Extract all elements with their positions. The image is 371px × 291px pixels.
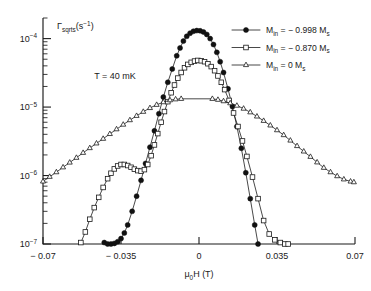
marker-filled-circle [156,111,161,116]
marker-open-square [272,238,277,243]
marker-filled-circle [214,50,219,55]
marker-open-square [278,240,283,245]
marker-open-triangle [81,150,86,154]
y-tick-label: 10−7 [20,238,38,249]
marker-open-square [250,175,255,180]
x-tick-label: − 0.035 [106,251,136,261]
marker-open-triangle [261,118,266,122]
marker-filled-circle [252,222,257,227]
plot-canvas: 10−410−510−610−7− 0.07− 0.03500.0350.07μ… [0,0,371,291]
marker-open-triangle [47,174,52,178]
y-axis-title: Γsqrts(s−1) [57,20,94,34]
marker-filled-circle [181,39,186,44]
marker-filled-circle [218,59,223,64]
marker-open-square [222,87,227,92]
marker-open-triangle [40,179,45,183]
marker-open-square [101,185,106,190]
marker-open-triangle [173,96,178,100]
marker-filled-circle [211,42,216,47]
text-layer: 10−410−510−610−7− 0.07− 0.03500.0350.07μ… [20,20,364,281]
figure-container: 10−410−510−610−7− 0.07− 0.03500.0350.07μ… [0,0,371,291]
marker-open-square [149,153,154,158]
marker-open-square [109,171,114,176]
marker-filled-circle [165,80,170,85]
marker-filled-circle [174,53,179,58]
marker-open-triangle [274,127,279,131]
y-tick-label: 10−4 [20,32,38,43]
legend-label: Min = − 0.870 Ms [266,43,330,55]
marker-open-triangle [107,131,112,135]
marker-filled-circle [243,170,248,175]
x-tick-label: 0.035 [266,251,289,261]
x-axis-title: μ0H (T) [184,269,213,281]
marker-open-triangle [308,154,313,158]
marker-filled-circle [244,28,249,33]
marker-open-square [245,154,250,159]
marker-filled-circle [204,32,209,37]
marker-open-triangle [179,96,184,100]
x-tick-label: 0 [196,251,201,261]
series-0 [102,28,261,246]
marker-open-triangle [114,126,119,130]
marker-open-square [244,45,249,50]
marker-open-square [176,76,181,81]
marker-open-square [231,111,236,116]
legend-label: Min = 0 Ms [266,60,305,72]
marker-open-square [96,195,101,200]
marker-open-square [172,83,177,88]
marker-open-square [216,74,221,79]
marker-filled-circle [147,145,152,150]
marker-open-triangle [295,143,300,147]
marker-open-square [88,217,93,222]
marker-open-triangle [127,117,132,121]
marker-filled-circle [256,242,261,247]
x-tick-label: − 0.07 [30,251,55,261]
y-tick-label: 10−5 [20,101,38,112]
marker-open-triangle [315,159,320,163]
marker-open-triangle [328,169,333,173]
marker-open-triangle [321,165,326,169]
series-line [43,99,354,182]
marker-open-square [159,120,164,125]
marker-open-square [286,242,291,247]
marker-filled-circle [130,209,135,214]
marker-open-square [219,80,224,85]
marker-open-square [92,205,97,210]
marker-open-square [236,124,241,129]
legend-entry-2: Min = 0 Ms [232,60,305,72]
marker-filled-circle [239,146,244,151]
marker-open-triangle [288,138,293,142]
series-line [104,31,258,244]
marker-filled-circle [170,66,175,71]
marker-filled-circle [134,194,139,199]
marker-open-square [240,139,245,144]
marker-open-square [212,68,217,73]
marker-open-square [169,90,174,95]
marker-open-square [105,176,110,181]
marker-open-triangle [268,122,273,126]
series-2 [40,96,356,184]
marker-open-square [162,109,167,114]
marker-filled-circle [119,236,124,241]
marker-open-triangle [281,132,286,136]
marker-open-square [256,196,261,201]
marker-open-triangle [301,149,306,153]
legend: Min = − 0.998 MsMin = − 0.870 MsMin = 0 … [232,25,330,72]
legend-entry-1: Min = − 0.870 Ms [232,43,330,55]
marker-open-square [267,232,272,237]
marker-open-triangle [74,155,79,159]
marker-open-square [142,167,147,172]
data-series-group [40,28,356,246]
marker-filled-circle [208,36,213,41]
marker-open-triangle [61,164,66,168]
series-1 [79,58,291,246]
marker-filled-circle [125,222,130,227]
marker-filled-circle [139,178,144,183]
series-line [81,60,288,244]
y-tick-label: 10−6 [20,169,38,180]
marker-filled-circle [248,196,253,201]
marker-open-square [145,162,150,167]
marker-open-square [155,131,160,136]
marker-open-triangle [94,140,99,144]
marker-open-square [79,240,84,245]
